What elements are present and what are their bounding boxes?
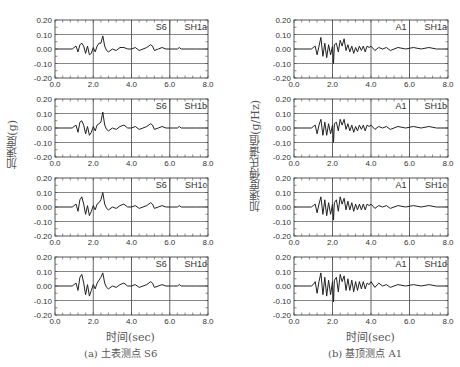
case-label: SH1a [425, 22, 448, 32]
station-label: A1 [396, 259, 407, 269]
right-y-axis-label: 加速度傅氏谱值(g/Hz) [248, 100, 264, 212]
y-tick-label: -0.10 [273, 60, 292, 69]
y-tick-label: 0.20 [36, 16, 52, 25]
left-panel-caption: (a) 土表测点 S6 [84, 345, 157, 360]
subplot-a1-sh1c: A1SH1c0.200.100.00-0.10-0.200.02.04.06.0… [273, 174, 454, 247]
case-label: SH1b [185, 101, 208, 111]
y-tick-label: 0.20 [36, 174, 52, 183]
x-tick-label: 8.0 [442, 159, 454, 168]
x-tick-label: 0.0 [288, 317, 300, 326]
case-label: SH1d [185, 259, 208, 269]
y-tick-label: 0.10 [275, 268, 291, 277]
y-tick-label: 0.00 [36, 45, 52, 54]
plots-canvas: S6SH1a0.200.100.00-0.10-0.200.02.04.06.0… [0, 0, 460, 367]
x-tick-label: 4.0 [365, 317, 377, 326]
x-tick-label: 8.0 [442, 238, 454, 247]
y-tick-label: 0.00 [275, 203, 291, 212]
y-tick-label: -0.10 [273, 218, 292, 227]
y-tick-label: 0.10 [36, 31, 52, 40]
x-tick-label: 2.0 [88, 238, 100, 247]
station-label: S6 [156, 180, 167, 190]
y-tick-label: 0.20 [275, 174, 291, 183]
y-tick-label: 0.00 [36, 203, 52, 212]
x-tick-label: 6.0 [404, 159, 416, 168]
figure: S6SH1a0.200.100.00-0.10-0.200.02.04.06.0… [0, 0, 460, 367]
y-tick-label: 0.20 [275, 95, 291, 104]
y-tick-label: -0.10 [273, 139, 292, 148]
x-tick-label: 6.0 [164, 317, 176, 326]
x-tick-label: 2.0 [88, 159, 100, 168]
y-tick-label: 0.20 [275, 16, 291, 25]
x-tick-label: 0.0 [49, 238, 61, 247]
x-tick-label: 0.0 [288, 159, 300, 168]
subplot-s6-sh1a: S6SH1a0.200.100.00-0.10-0.200.02.04.06.0… [34, 16, 214, 89]
y-tick-label: 0.20 [275, 253, 291, 262]
y-tick-label: -0.10 [34, 139, 53, 148]
right-x-axis-label: 时间(sec) [346, 328, 395, 344]
y-tick-label: -0.10 [34, 60, 53, 69]
left-y-axis-label: 加速度(g) [5, 120, 21, 169]
y-tick-label: 0.10 [36, 110, 52, 119]
x-tick-label: 0.0 [288, 238, 300, 247]
x-tick-label: 0.0 [49, 80, 61, 89]
x-tick-label: 4.0 [126, 159, 138, 168]
x-tick-label: 4.0 [365, 80, 377, 89]
case-label: SH1b [425, 101, 448, 111]
right-panel-caption: (b) 基顶测点 A1 [328, 345, 402, 360]
x-tick-label: 4.0 [365, 238, 377, 247]
y-tick-label: 0.20 [36, 253, 52, 262]
station-label: S6 [156, 22, 167, 32]
x-tick-label: 4.0 [126, 317, 138, 326]
x-tick-label: 6.0 [164, 238, 176, 247]
station-label: A1 [396, 22, 407, 32]
x-tick-label: 8.0 [202, 317, 214, 326]
x-tick-label: 2.0 [327, 317, 339, 326]
x-tick-label: 4.0 [126, 80, 138, 89]
station-label: A1 [396, 180, 407, 190]
case-label: SH1a [185, 22, 208, 32]
left-x-axis-label: 时间(sec) [106, 328, 155, 344]
x-tick-label: 6.0 [404, 80, 416, 89]
station-label: A1 [396, 101, 407, 111]
y-tick-label: 0.00 [36, 282, 52, 291]
y-tick-label: 0.10 [275, 110, 291, 119]
y-tick-label: 0.00 [275, 124, 291, 133]
y-tick-label: 0.00 [275, 45, 291, 54]
x-tick-label: 0.0 [288, 80, 300, 89]
x-tick-label: 8.0 [202, 159, 214, 168]
y-tick-label: -0.10 [34, 297, 53, 306]
subplot-a1-sh1d: A1SH1d0.200.100.00-0.10-0.200.02.04.06.0… [273, 253, 454, 326]
case-label: SH1c [185, 180, 208, 190]
subplot-s6-sh1d: S6SH1d0.200.100.00-0.10-0.200.02.04.06.0… [34, 253, 214, 326]
x-tick-label: 0.0 [49, 317, 61, 326]
x-tick-label: 6.0 [164, 159, 176, 168]
x-tick-label: 0.0 [49, 159, 61, 168]
x-tick-label: 2.0 [88, 80, 100, 89]
y-tick-label: 0.10 [275, 31, 291, 40]
y-tick-label: 0.20 [36, 95, 52, 104]
y-tick-label: 0.10 [36, 268, 52, 277]
x-tick-label: 8.0 [202, 238, 214, 247]
x-tick-label: 8.0 [442, 317, 454, 326]
x-tick-label: 2.0 [327, 80, 339, 89]
x-tick-label: 2.0 [327, 238, 339, 247]
station-label: S6 [156, 259, 167, 269]
station-label: S6 [156, 101, 167, 111]
x-tick-label: 8.0 [442, 80, 454, 89]
x-tick-label: 6.0 [164, 80, 176, 89]
y-tick-label: -0.10 [34, 218, 53, 227]
subplot-a1-sh1b: A1SH1b0.200.100.00-0.10-0.200.02.04.06.0… [273, 95, 454, 168]
case-label: SH1c [425, 180, 448, 190]
subplot-s6-sh1b: S6SH1b0.200.100.00-0.10-0.200.02.04.06.0… [34, 95, 214, 168]
x-tick-label: 2.0 [88, 317, 100, 326]
subplot-s6-sh1c: S6SH1c0.200.100.00-0.10-0.200.02.04.06.0… [34, 174, 214, 247]
y-tick-label: 0.00 [275, 282, 291, 291]
x-tick-label: 2.0 [327, 159, 339, 168]
y-tick-label: 0.00 [36, 124, 52, 133]
y-tick-label: 0.10 [275, 189, 291, 198]
y-tick-label: 0.10 [36, 189, 52, 198]
x-tick-label: 6.0 [404, 317, 416, 326]
y-tick-label: -0.10 [273, 297, 292, 306]
x-tick-label: 6.0 [404, 238, 416, 247]
case-label: SH1d [425, 259, 448, 269]
